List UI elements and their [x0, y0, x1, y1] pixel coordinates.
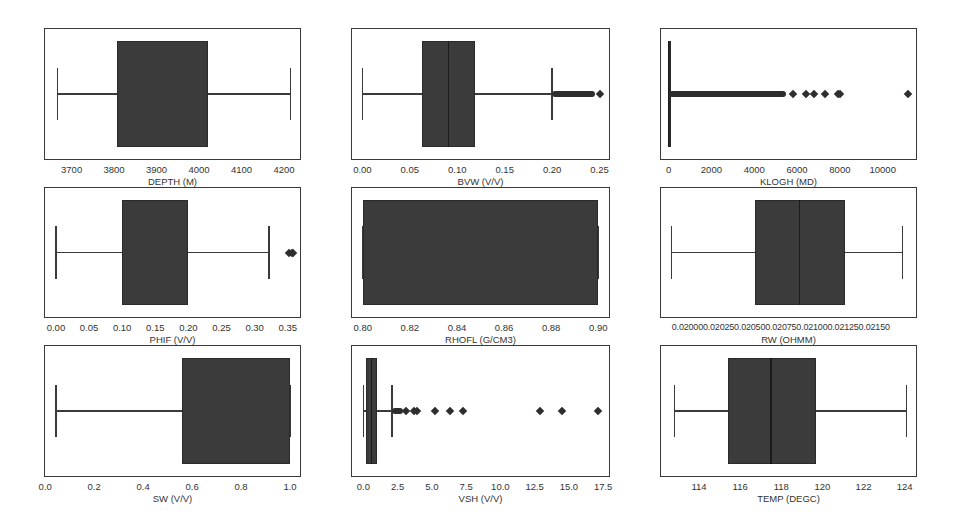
cap-low — [674, 385, 676, 438]
x-tick-label: 0.0 — [39, 481, 52, 492]
x-tick-label: 12.5 — [525, 481, 544, 492]
x-axis-label: RHOFL (G/CM3) — [445, 334, 516, 345]
whisker-high — [377, 410, 392, 412]
x-tick-label: 0.82 — [401, 322, 420, 333]
x-tick-label: 0.05 — [80, 322, 99, 333]
x-tick-label: 0.86 — [495, 322, 514, 333]
x-tick-label: 6000 — [786, 164, 807, 175]
x-tick-label: 0.00 — [47, 322, 66, 333]
x-tick-label: 0.10 — [113, 322, 132, 333]
cap-high — [902, 226, 904, 278]
x-tick-label: 4100 — [231, 164, 252, 175]
iqr-box — [728, 358, 816, 464]
x-axis-label: BVW (V/V) — [458, 176, 504, 187]
x-tick-label: 0.88 — [542, 322, 561, 333]
whisker-low — [56, 410, 182, 412]
iqr-box — [363, 200, 598, 305]
x-tick-label: 0.00 — [353, 164, 372, 175]
cap-low — [363, 385, 365, 438]
whisker-high — [816, 410, 906, 412]
x-tick-label: 122 — [856, 481, 872, 492]
whisker-low — [56, 252, 122, 254]
iqr-box — [117, 41, 207, 147]
iqr-box — [182, 358, 290, 464]
x-tick-label: 118 — [774, 481, 789, 492]
x-tick-label: 1.0 — [283, 481, 296, 492]
x-axis-label: KLOGH (MD) — [760, 176, 817, 187]
whisker-high — [475, 93, 552, 95]
cap-low — [671, 226, 673, 278]
x-tick-label: 2.5 — [391, 481, 404, 492]
outlier-cluster — [552, 91, 595, 97]
x-tick-label: 17.5 — [594, 481, 613, 492]
x-tick-label: 5.0 — [425, 481, 438, 492]
x-tick-label: 10000 — [870, 164, 896, 175]
cap-high — [268, 226, 270, 278]
median-line — [448, 41, 450, 147]
x-tick-label: 120 — [814, 481, 830, 492]
x-tick-label: 124 — [897, 481, 913, 492]
median-line — [770, 358, 772, 464]
x-tick-label: 0.8 — [234, 481, 247, 492]
x-tick-label: 0.15 — [146, 322, 165, 333]
x-tick-label: 7.5 — [460, 481, 473, 492]
cap-high — [906, 385, 908, 438]
x-tick-label: 0.20 — [179, 322, 198, 333]
x-tick-label: 0.20 — [543, 164, 562, 175]
x-tick-label: 0.35 — [279, 322, 298, 333]
x-tick-label: 2000 — [701, 164, 722, 175]
cap-low — [362, 68, 364, 121]
x-tick-label: 0.25 — [590, 164, 609, 175]
x-tick-label: 4000 — [744, 164, 765, 175]
x-tick-label: 0.30 — [245, 322, 264, 333]
x-axis-label: RW (OHMM) — [761, 334, 816, 345]
x-axis-label: PHIF (V/V) — [150, 334, 196, 345]
whisker-low — [671, 252, 754, 254]
x-tick-label: 0.84 — [448, 322, 467, 333]
x-tick-label: 0.10 — [448, 164, 467, 175]
x-tick-label: 116 — [733, 481, 748, 492]
whisker-high — [208, 93, 291, 95]
x-tick-label: 0.4 — [137, 481, 150, 492]
x-axis-label: SW (V/V) — [153, 493, 193, 504]
x-tick-label: 0.2 — [88, 481, 101, 492]
x-tick-label: 3900 — [146, 164, 167, 175]
x-tick-label: 0 — [666, 164, 671, 175]
cap-low — [55, 226, 57, 278]
iqr-box — [122, 200, 188, 305]
x-tick-label: 3700 — [61, 164, 82, 175]
x-axis-label: VSH (V/V) — [459, 493, 503, 504]
x-tick-label: 0.15 — [495, 164, 514, 175]
x-tick-label: 0.05 — [401, 164, 420, 175]
x-tick-label: 3800 — [104, 164, 125, 175]
cap-low — [55, 385, 57, 438]
x-axis-label: DEPTH (M) — [148, 176, 197, 187]
x-tick-label: 15.0 — [560, 481, 579, 492]
x-tick-label: 10.0 — [491, 481, 510, 492]
whisker-low — [362, 93, 422, 95]
x-tick-label: 0.90 — [589, 322, 608, 333]
x-tick-label: 4000 — [188, 164, 209, 175]
x-tick-label: 114 — [691, 481, 706, 492]
x-axis-label: TEMP (DEGC) — [757, 493, 820, 504]
median-line — [371, 358, 373, 464]
median-line — [799, 200, 801, 305]
x-tick-label: 0.80 — [354, 322, 373, 333]
whisker-low — [674, 410, 727, 412]
whisker-low — [58, 93, 118, 95]
x-tick-label: 0.6 — [185, 481, 198, 492]
cap-low — [57, 68, 59, 121]
whisker-high — [845, 252, 902, 254]
x-tick-label: 4200 — [273, 164, 294, 175]
cap-high — [290, 68, 292, 121]
x-tick-label: 0.25 — [212, 322, 231, 333]
outlier-cluster — [669, 91, 786, 97]
x-tick-label: 0.0 — [357, 481, 370, 492]
whisker-high — [188, 252, 269, 254]
x-tick-label: 8000 — [829, 164, 850, 175]
x-tick-labels: 0.020000.020250.020500.020750.021000.021… — [672, 322, 890, 332]
